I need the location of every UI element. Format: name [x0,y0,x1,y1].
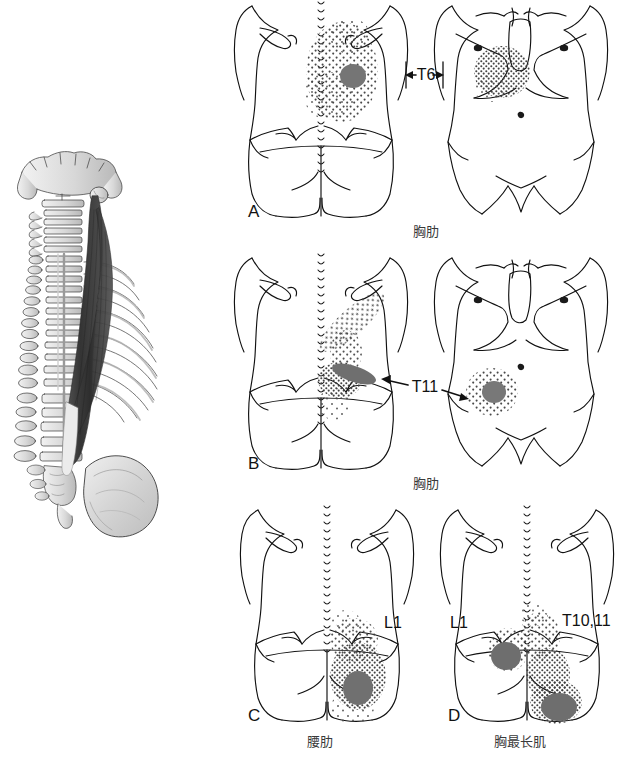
panel-d-letter: D [448,706,461,725]
panel-a-spillover-front [474,46,530,102]
cervical-vertebrae [29,194,84,256]
panel-d-level-label-right: T10,11 [562,612,611,629]
panel-d-level-label-left: L1 [450,614,468,631]
panel-b: T11 B 胸肋 [235,254,608,491]
panel-b-level-label: T11 [412,378,438,395]
panel-b-front-figure [435,258,608,466]
panel-c-letter: C [248,706,261,725]
panel-a: T6 A 胸肋 [235,2,608,239]
panel-d-essential-zone-lower [541,693,577,721]
panel-b-essential-zone-front [482,381,506,403]
panel-a-caption: 胸肋 [413,224,439,239]
panel-b-back-figure [235,258,408,469]
panel-c-caption: 腰肋 [307,734,333,749]
thoracic-vertebrae [19,254,83,390]
panel-c-essential-zone-back [343,671,373,705]
referred-pain-figure: T6 A 胸肋 [0,0,623,770]
panel-d: L1 T10,11 D 胸最长肌 [441,506,614,749]
panel-a-letter: A [248,202,260,221]
panel-d-caption: 胸最长肌 [494,734,546,749]
panel-c: L1 C 腰肋 [241,506,414,749]
panel-b-caption: 胸肋 [413,476,439,491]
pain-pattern-panels: T6 A 胸肋 [230,0,623,770]
panel-c-level-label: L1 [384,614,402,631]
panel-a-level-label: T6 [417,66,436,83]
panel-a-front-figure [435,6,608,214]
panel-d-essential-zone-upper [491,642,521,670]
panel-b-letter: B [248,454,260,473]
panel-a-essential-zone-back [340,64,366,88]
spine-marker-c [324,506,330,652]
ilium [84,456,158,537]
panel-c-spillover-back [330,610,386,724]
panel-a-spillover-back [304,18,378,122]
anatomy-illustration [0,150,230,610]
